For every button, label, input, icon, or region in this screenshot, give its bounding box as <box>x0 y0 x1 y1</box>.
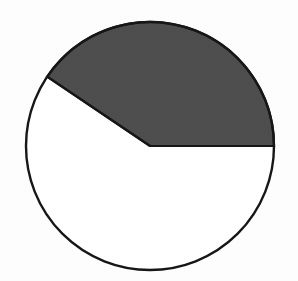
figure-container: Shaded sector of a circle A circle with … <box>0 0 298 281</box>
pie-chart-svg <box>0 0 298 281</box>
